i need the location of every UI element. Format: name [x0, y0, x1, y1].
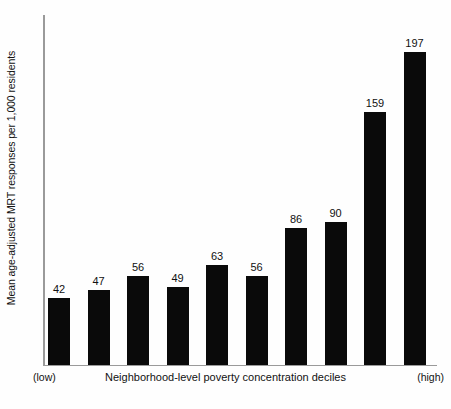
bar [206, 265, 228, 365]
bar-value-label: 90 [329, 208, 341, 219]
bar-group: 42 [48, 15, 70, 365]
y-axis-title-text: Mean age-adjusted MRT responses per 1,00… [5, 50, 17, 304]
bar-value-label: 86 [290, 214, 302, 225]
bar-group: 90 [325, 15, 347, 365]
y-axis-title: Mean age-adjusted MRT responses per 1,00… [0, 0, 22, 355]
bar-value-label: 197 [405, 38, 423, 49]
bar-value-label: 49 [171, 273, 183, 284]
bar [404, 52, 426, 365]
bar-group: 49 [167, 15, 189, 365]
bar-value-label: 42 [53, 284, 65, 295]
bar [364, 112, 386, 365]
bar-value-label: 63 [211, 251, 223, 262]
bar-value-label: 56 [250, 262, 262, 273]
bar [127, 276, 149, 365]
bar-value-label: 56 [132, 262, 144, 273]
bar [88, 290, 110, 365]
bar-group: 56 [246, 15, 268, 365]
bar-value-label: 159 [366, 98, 384, 109]
bar-group: 47 [88, 15, 110, 365]
bar-group: 56 [127, 15, 149, 365]
x-axis-high-caption: (high) [417, 371, 444, 383]
bar [246, 276, 268, 365]
bar-group: 63 [206, 15, 228, 365]
bar-chart: Mean age-adjusted MRT responses per 1,00… [0, 0, 451, 409]
plot-area: 4247564963568690159197 [43, 15, 437, 365]
bar-value-label: 47 [92, 276, 104, 287]
bar [285, 228, 307, 365]
bar [167, 287, 189, 365]
bar-group: 86 [285, 15, 307, 365]
bar-group: 197 [404, 15, 426, 365]
bar-group: 159 [364, 15, 386, 365]
x-axis-title: Neighborhood-level poverty concentration… [0, 371, 451, 383]
bar [48, 298, 70, 365]
bar [325, 222, 347, 365]
